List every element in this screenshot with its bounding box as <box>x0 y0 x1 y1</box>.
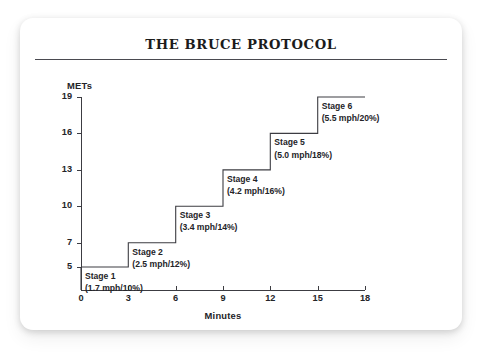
x-tick-label-0: 0 <box>78 293 83 303</box>
y-tick-label-7: 7 <box>58 237 72 247</box>
stage-label-2: Stage 2(2.5 mph/12%) <box>132 246 190 270</box>
y-tick-label-19: 19 <box>58 91 72 101</box>
y-axis-title: METs <box>67 80 92 91</box>
x-tick-15 <box>318 286 319 290</box>
x-axis-title: Minutes <box>81 310 365 321</box>
stage-label-6-detail: (5.5 mph/20%) <box>322 112 380 124</box>
stage-label-6-name: Stage 6 <box>322 100 380 112</box>
y-tick-label-10: 10 <box>58 200 72 210</box>
y-tick-19 <box>77 97 81 98</box>
stage-label-1: Stage 1(1.7 mph/10%) <box>85 270 143 294</box>
stage-label-3: Stage 3(3.4 mph/14%) <box>180 209 238 233</box>
y-tick-5 <box>77 267 81 268</box>
y-tick-16 <box>77 133 81 134</box>
stage-label-5-name: Stage 5 <box>274 136 332 148</box>
y-tick-13 <box>77 170 81 171</box>
x-tick-0 <box>81 286 82 290</box>
y-tick-10 <box>77 206 81 207</box>
x-tick-9 <box>223 286 224 290</box>
y-axis-line <box>81 97 82 291</box>
stage-label-1-name: Stage 1 <box>85 270 143 282</box>
stage-label-3-detail: (3.4 mph/14%) <box>180 221 238 233</box>
x-tick-label-18: 18 <box>360 293 370 303</box>
stage-label-4-name: Stage 4 <box>227 173 285 185</box>
stage-label-5: Stage 5(5.0 mph/18%) <box>274 136 332 160</box>
y-tick-label-16: 16 <box>58 127 72 137</box>
chart-card: THE BRUCE PROTOCOL METs 5710131619 03691… <box>20 18 462 330</box>
y-tick-label-13: 13 <box>58 164 72 174</box>
y-tick-label-5: 5 <box>58 261 72 271</box>
stage-label-3-name: Stage 3 <box>180 209 238 221</box>
y-tick-7 <box>77 243 81 244</box>
stage-label-4-detail: (4.2 mph/16%) <box>227 185 285 197</box>
x-tick-label-12: 12 <box>265 293 275 303</box>
x-tick-12 <box>270 286 271 290</box>
stage-label-4: Stage 4(4.2 mph/16%) <box>227 173 285 197</box>
x-tick-label-3: 3 <box>126 293 131 303</box>
x-tick-18 <box>365 286 366 290</box>
stage-label-2-detail: (2.5 mph/12%) <box>132 258 190 270</box>
x-tick-label-9: 9 <box>220 293 225 303</box>
stage-label-1-detail: (1.7 mph/10%) <box>85 282 143 294</box>
x-tick-6 <box>176 286 177 290</box>
stage-label-5-detail: (5.0 mph/18%) <box>274 149 332 161</box>
stage-label-2-name: Stage 2 <box>132 246 190 258</box>
chart-plot-area: METs 5710131619 0369121518 Stage 1(1.7 m… <box>20 18 462 330</box>
screenshot-root: THE BRUCE PROTOCOL METs 5710131619 03691… <box>0 0 482 352</box>
stage-label-6: Stage 6(5.5 mph/20%) <box>322 100 380 124</box>
x-tick-label-6: 6 <box>173 293 178 303</box>
x-tick-label-15: 15 <box>313 293 323 303</box>
